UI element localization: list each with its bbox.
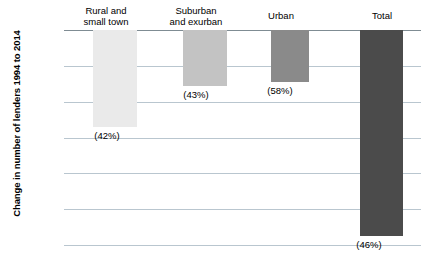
bar-urban[interactable] xyxy=(271,30,309,82)
category-label-line-1: Suburban xyxy=(161,5,231,16)
bar-rural-and-small-town[interactable] xyxy=(93,30,137,127)
bar-suburban-and-exurban[interactable] xyxy=(183,30,227,86)
value-label-urban: (58%) xyxy=(253,85,307,96)
category-label-suburban-and-exurban: Suburban and exurban xyxy=(161,5,231,27)
category-label-urban: Urban xyxy=(246,10,316,21)
category-label-line-2: small town xyxy=(71,16,141,27)
bar-chart: Change in number of lenders 1994 to 2014… xyxy=(0,0,427,265)
category-label-line-1: Total xyxy=(347,10,417,21)
value-label-suburban-and-exurban: (43%) xyxy=(168,89,224,100)
category-label-rural-and-small-town: Rural and small town xyxy=(71,5,141,27)
value-label-total: (46%) xyxy=(342,239,396,250)
category-label-line-1: Rural and xyxy=(71,5,141,16)
value-label-rural-and-small-town: (42%) xyxy=(80,130,134,141)
y-axis-title: Change in number of lenders 1994 to 2014 xyxy=(11,4,22,244)
category-label-line-1: Urban xyxy=(246,10,316,21)
category-label-line-2: and exurban xyxy=(161,16,231,27)
category-label-total: Total xyxy=(347,10,417,21)
bar-total[interactable] xyxy=(360,30,403,236)
